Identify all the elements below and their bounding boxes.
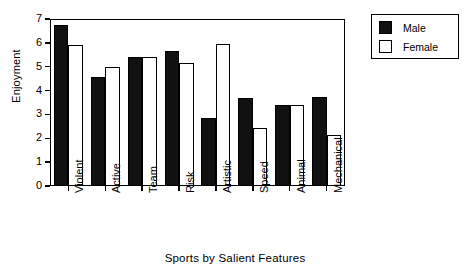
x-tick-mark (252, 186, 253, 191)
x-tick-label: Active (110, 103, 122, 193)
x-tick-label: Risk (184, 103, 196, 193)
bar-violent-male (54, 25, 69, 186)
bar-animal-male (275, 105, 290, 186)
x-tick-label: Team (147, 103, 159, 193)
bar-active-male (91, 77, 106, 186)
legend: Male Female (371, 14, 459, 59)
x-tick-label: Speed (258, 103, 270, 193)
bar-speed-male (238, 98, 253, 186)
x-tick-mark (178, 186, 179, 191)
x-axis-title: Sports by Salient Features (0, 252, 470, 264)
legend-label-female: Female (403, 40, 438, 54)
x-tick-label: Mechanical (332, 103, 344, 193)
bar-mechanical-male (312, 97, 327, 186)
bar-team-male (128, 57, 143, 186)
x-tick-mark (105, 186, 106, 191)
legend-swatch-male-icon (379, 21, 392, 34)
bar-chart: Enjoyment 01234567 ViolentActiveTeamRisk… (0, 0, 470, 278)
x-tick-label: Violent (73, 103, 85, 193)
x-tick-mark (326, 186, 327, 191)
legend-label-male: Male (403, 21, 426, 35)
x-tick-mark (289, 186, 290, 191)
x-tick-label: Artistic (221, 103, 233, 193)
bar-risk-male (165, 51, 180, 186)
x-tick-mark (141, 186, 142, 191)
bar-artistic-male (201, 118, 216, 186)
x-tick-mark (68, 186, 69, 191)
x-tick-label: Animal (295, 103, 307, 193)
x-tick-mark (215, 186, 216, 191)
legend-swatch-female-icon (379, 40, 392, 53)
